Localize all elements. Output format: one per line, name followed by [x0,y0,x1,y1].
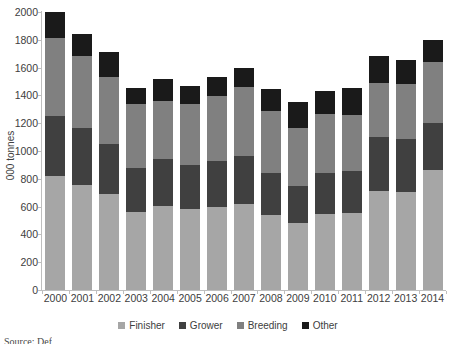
bar-group[interactable] [234,12,254,290]
bar-segment-finisher[interactable] [369,191,389,290]
bar-segment-finisher[interactable] [72,185,92,290]
legend-label: Finisher [129,320,165,331]
bar-segment-breeding[interactable] [423,62,443,123]
bar-stack [180,86,200,290]
bar-group[interactable] [423,12,443,290]
bar-segment-other[interactable] [369,56,389,82]
bar-segment-breeding[interactable] [288,128,308,186]
bar-group[interactable] [72,12,92,290]
x-tick-mark [257,291,258,294]
legend-item-other[interactable]: Other [302,320,338,331]
x-tick-mark [123,291,124,294]
bar-segment-finisher[interactable] [45,176,65,290]
bar-stack [207,77,227,290]
x-tick-label: 2005 [177,293,204,304]
bar-group[interactable] [288,12,308,290]
bar-group[interactable] [369,12,389,290]
x-tick-mark [446,291,447,294]
bar-segment-grower[interactable] [423,123,443,170]
x-tick-label: 2001 [69,293,96,304]
bar-segment-grower[interactable] [207,161,227,207]
bar-segment-finisher[interactable] [126,212,146,290]
bar-segment-breeding[interactable] [45,38,65,116]
y-tick-label: 200 [2,257,38,268]
bar-group[interactable] [180,12,200,290]
bar-group[interactable] [342,12,362,290]
bar-segment-breeding[interactable] [72,56,92,128]
bar-segment-other[interactable] [396,60,416,84]
y-tick-label: 1600 [2,62,38,73]
bar-segment-breeding[interactable] [261,111,281,174]
bar-segment-other[interactable] [45,12,65,38]
bar-segment-breeding[interactable] [342,115,362,171]
bar-group[interactable] [261,12,281,290]
legend-item-finisher[interactable]: Finisher [118,320,165,331]
y-tick-label: 1800 [2,35,38,46]
bar-segment-grower[interactable] [126,168,146,212]
bar-group[interactable] [126,12,146,290]
bar-segment-grower[interactable] [342,171,362,213]
bar-segment-other[interactable] [99,52,119,76]
bar-segment-finisher[interactable] [342,213,362,290]
legend-swatch-icon [302,322,309,329]
bar-segment-other[interactable] [261,89,281,111]
bar-stack [72,34,92,290]
bar-segment-finisher[interactable] [207,207,227,290]
bar-segment-other[interactable] [342,88,362,115]
bar-group[interactable] [99,12,119,290]
bar-segment-grower[interactable] [180,165,200,209]
bar-segment-breeding[interactable] [153,101,173,159]
y-tick-label: 1000 [2,146,38,157]
bar-segment-grower[interactable] [261,173,281,215]
x-tick-label: 2007 [231,293,258,304]
bar-segment-finisher[interactable] [315,214,335,290]
bar-segment-finisher[interactable] [261,215,281,290]
bar-segment-breeding[interactable] [369,83,389,137]
bar-segment-grower[interactable] [396,139,416,193]
bar-segment-grower[interactable] [99,144,119,194]
bar-segment-other[interactable] [153,79,173,101]
bar-segment-finisher[interactable] [396,192,416,290]
x-tick-mark [392,291,393,294]
bar-segment-other[interactable] [207,77,227,96]
bar-segment-other[interactable] [234,68,254,87]
bar-segment-grower[interactable] [72,128,92,185]
bar-segment-grower[interactable] [315,173,335,215]
bar-group[interactable] [45,12,65,290]
bar-segment-grower[interactable] [288,186,308,223]
bar-segment-finisher[interactable] [99,194,119,290]
bar-segment-breeding[interactable] [180,104,200,165]
bar-segment-breeding[interactable] [234,87,254,156]
bar-segment-breeding[interactable] [396,84,416,138]
bar-stack [45,12,65,290]
bar-segment-finisher[interactable] [180,209,200,290]
bar-segment-finisher[interactable] [234,204,254,290]
bar-group[interactable] [315,12,335,290]
legend-item-breeding[interactable]: Breeding [237,320,288,331]
bar-segment-breeding[interactable] [207,96,227,161]
legend-item-grower[interactable]: Grower [179,320,223,331]
bar-group[interactable] [207,12,227,290]
bar-segment-finisher[interactable] [288,223,308,290]
bar-stack [369,56,389,290]
y-tick-label: 1400 [2,90,38,101]
stacked-bar-chart: 000 tonnes 02004006008001000120014001600… [0,0,456,344]
bar-segment-finisher[interactable] [153,206,173,290]
bar-group[interactable] [153,12,173,290]
bar-segment-other[interactable] [126,88,146,104]
bar-segment-other[interactable] [180,86,200,104]
bar-segment-other[interactable] [315,91,335,114]
bar-segment-grower[interactable] [234,156,254,204]
bar-segment-breeding[interactable] [315,114,335,172]
bar-segment-other[interactable] [288,102,308,128]
legend-swatch-icon [237,322,244,329]
bar-segment-breeding[interactable] [126,104,146,168]
bar-segment-finisher[interactable] [423,170,443,290]
bar-segment-other[interactable] [72,34,92,56]
bar-segment-grower[interactable] [45,116,65,176]
bar-segment-grower[interactable] [369,137,389,191]
bar-segment-grower[interactable] [153,159,173,206]
bar-group[interactable] [396,12,416,290]
bar-segment-breeding[interactable] [99,77,119,144]
bar-segment-other[interactable] [423,40,443,62]
